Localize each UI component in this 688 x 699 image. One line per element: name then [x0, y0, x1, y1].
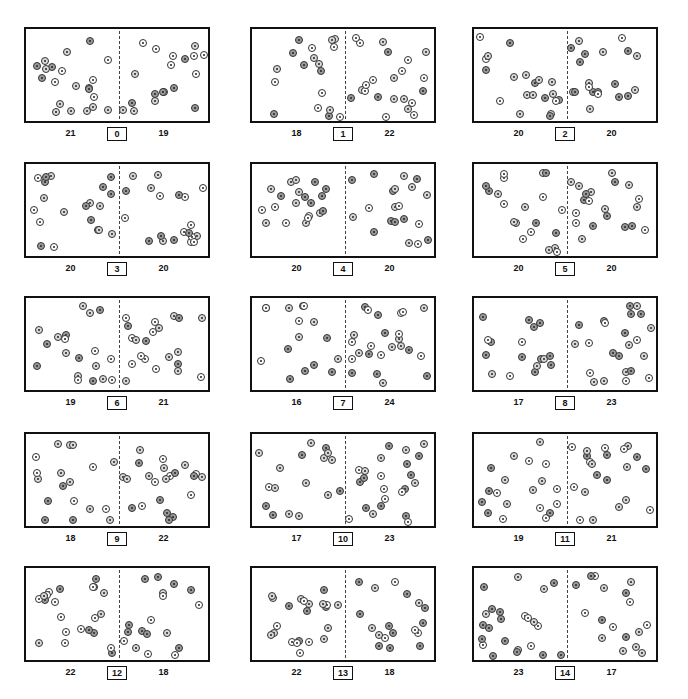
snapshot-panel: 19621 [24, 296, 210, 414]
particle-dot [83, 107, 91, 115]
particle-dot [417, 352, 425, 360]
particle-dot [170, 236, 178, 244]
left-count: 22 [56, 667, 86, 677]
particle-dot [99, 183, 107, 191]
particle-dot [171, 469, 179, 477]
particle-dot [532, 219, 540, 227]
box-frame [24, 566, 210, 662]
particle-dot [478, 498, 486, 506]
particle-dot [122, 187, 130, 195]
particle-dot [57, 469, 65, 477]
particle-dot [391, 218, 399, 226]
left-count: 23 [504, 667, 534, 677]
particle-dot [348, 338, 356, 346]
particle-dot [284, 345, 292, 353]
particle-dot [295, 512, 303, 520]
particle-dot [270, 110, 278, 118]
particle-dot [479, 313, 487, 321]
particle-dot [82, 202, 90, 210]
particle-dot [200, 51, 208, 59]
particle-dot [152, 365, 160, 373]
box-frame [24, 432, 210, 528]
particle-dot [622, 633, 630, 641]
snapshot-panel: 20520 [472, 162, 658, 280]
snapshot-index: 0 [107, 127, 127, 141]
particle-dot [484, 509, 492, 517]
particle-dot [50, 243, 58, 251]
particle-dot [482, 66, 490, 74]
particle-dot [104, 56, 112, 64]
snapshot-panel: 18922 [24, 432, 210, 550]
particle-dot [345, 515, 353, 523]
particle-dot [510, 452, 518, 460]
particle-dot [414, 240, 422, 248]
particle-dot [624, 47, 632, 55]
particle-dot [586, 369, 594, 377]
left-count: 20 [504, 128, 534, 138]
particle-dot [128, 504, 136, 512]
particle-dot [328, 368, 336, 376]
particle-dot [386, 644, 394, 652]
particle-dot [295, 317, 303, 325]
box-frame [250, 566, 436, 662]
particle-dot [77, 625, 85, 633]
particle-dot [62, 628, 70, 636]
particle-dot [643, 621, 651, 629]
particle-dot [627, 578, 635, 586]
particle-dot [128, 360, 136, 368]
particle-dot [295, 333, 303, 341]
particle-dot [488, 370, 496, 378]
particle-dot [145, 237, 153, 245]
particle-dot [174, 367, 182, 375]
particle-dot [190, 52, 198, 60]
particle-dot [598, 616, 606, 624]
particle-dot [296, 649, 304, 657]
particle-dot [625, 181, 633, 189]
particle-dot [195, 601, 203, 609]
snapshot-panel: 221318 [250, 566, 436, 684]
particle-dot [525, 457, 533, 465]
box-frame [472, 162, 658, 258]
snapshot-panel: 221218 [24, 566, 210, 684]
particle-dot [402, 446, 410, 454]
particle-dot [181, 55, 189, 63]
particle-dot [369, 510, 377, 518]
particle-dot [484, 52, 492, 60]
particle-dot [571, 88, 579, 96]
particle-dot [601, 319, 609, 327]
particle-dot [56, 585, 64, 593]
particle-dot [499, 515, 507, 523]
left-count: 20 [282, 263, 312, 273]
snapshot-index: 7 [333, 396, 353, 410]
particle-dot [603, 212, 611, 220]
particle-dot [324, 491, 332, 499]
particle-dot [585, 339, 593, 347]
particle-dot [271, 78, 279, 86]
particle-dot [600, 584, 608, 592]
particle-dot [598, 634, 606, 642]
particle-dot [627, 367, 635, 375]
particle-dot [575, 37, 583, 45]
particle-dot [285, 510, 293, 518]
particle-dot [289, 49, 297, 57]
particle-dot [419, 87, 427, 95]
particle-dot [323, 334, 331, 342]
particle-dot [352, 34, 360, 42]
particle-dot [191, 42, 199, 50]
particle-dot [542, 169, 550, 177]
right-count: 19 [149, 128, 179, 138]
box-frame [472, 296, 658, 392]
particle-dot [167, 61, 175, 69]
particle-dot [400, 215, 408, 223]
particle-dot [139, 39, 147, 47]
particle-dot [624, 92, 632, 100]
particle-dot [119, 106, 127, 114]
particle-dot [122, 377, 130, 385]
particle-dot [485, 487, 493, 495]
particle-dot [408, 183, 416, 191]
particle-dot [277, 192, 285, 200]
particle-dot [609, 349, 617, 357]
particle-dot [541, 94, 549, 102]
snapshot-panel: 18122 [250, 27, 436, 145]
particle-dot [518, 353, 526, 361]
